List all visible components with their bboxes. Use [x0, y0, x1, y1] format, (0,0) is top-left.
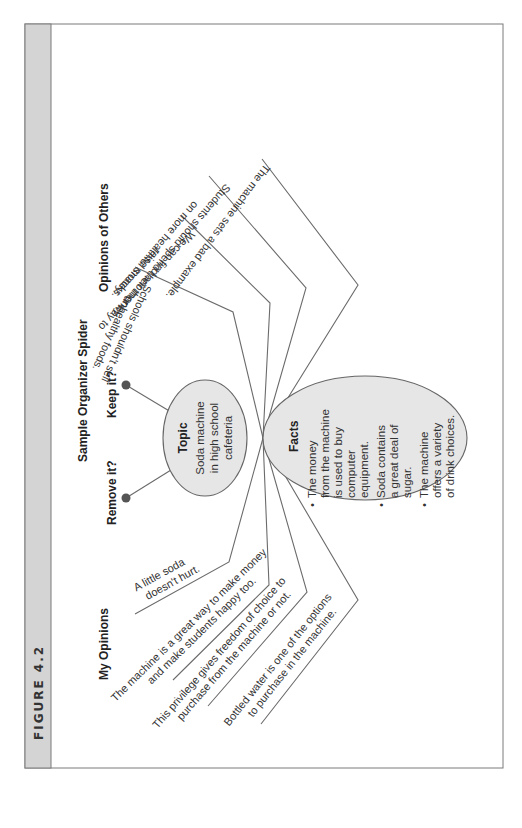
my-opinions-heading: My Opinions	[97, 608, 111, 680]
remove-it-label: Remove it?	[105, 460, 119, 525]
facts-bullet-1-marker: •	[306, 503, 318, 507]
figure-label: FIGURE 4.2	[32, 645, 46, 740]
opinions-of-others-heading: Opinions of Others	[97, 183, 111, 292]
keep-it-dot	[122, 381, 131, 390]
diagram-title: Sample Organizer Spider	[76, 319, 90, 462]
facts-bullet-1-line-3: is used to buy	[332, 427, 344, 498]
facts-bullet-3-line-2: offers a variety	[431, 423, 443, 498]
facts-bullet-3-line-3: of drink choices.	[444, 415, 456, 498]
topic-line-1: Soda machine	[194, 401, 206, 475]
facts-bullet-2-line-2: a great deal of	[388, 424, 400, 498]
facts-bullet-2-marker: •	[375, 503, 387, 507]
facts-bullet-1-line-4: computer	[345, 450, 357, 498]
facts-bullet-2-line-3: sugar.	[401, 467, 413, 498]
facts-bullet-3-marker: •	[418, 503, 430, 507]
topic-line-2: in high school	[208, 403, 220, 473]
topic-title: Topic	[176, 422, 190, 453]
figure-page: FIGURE 4.2 Sample Organizer Spider Keep …	[0, 0, 522, 828]
facts-bullet-3-line-1: The machine	[418, 432, 430, 498]
remove-it-dot	[122, 494, 131, 503]
facts-bullet-2-line-1: Soda contains	[375, 425, 387, 498]
organizer-spider-diagram: FIGURE 4.2 Sample Organizer Spider Keep …	[0, 0, 522, 828]
facts-bullet-1-line-2: from the machine	[319, 409, 331, 498]
facts-title: Facts	[287, 420, 301, 452]
facts-bullet-1-line-5: equipment.	[358, 441, 370, 498]
topic-line-3: cafeteria	[222, 415, 234, 460]
facts-bullet-1-line-1: The money	[306, 440, 318, 498]
